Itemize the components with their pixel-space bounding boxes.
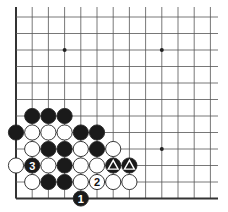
- white-stone: [122, 174, 137, 189]
- black-stone: [122, 158, 137, 173]
- black-stone: [57, 174, 72, 189]
- white-stone: [73, 174, 88, 189]
- white-stone: [25, 141, 40, 156]
- white-stone: [41, 158, 56, 173]
- stone-body: [73, 158, 88, 173]
- white-stone: [8, 158, 23, 173]
- stone-body: [41, 158, 56, 173]
- stone-body: [89, 125, 104, 140]
- black-stone: [41, 141, 56, 156]
- black-stone: [41, 174, 56, 189]
- stone-body: [8, 125, 23, 140]
- stone-body: [106, 174, 121, 189]
- stone-body: [73, 125, 88, 140]
- stone-body: [73, 141, 88, 156]
- stone-body: [57, 141, 72, 156]
- stone-body: [41, 125, 56, 140]
- black-stone: [41, 108, 56, 123]
- star-point: [160, 147, 164, 151]
- white-stone: [57, 125, 72, 140]
- black-stone: [25, 108, 40, 123]
- black-stone: [57, 141, 72, 156]
- stone-body: [57, 158, 72, 173]
- star-point: [63, 48, 67, 52]
- stone-body: [89, 158, 104, 173]
- stone-body: [25, 125, 40, 140]
- black-stone: [89, 141, 104, 156]
- stone-body: [57, 125, 72, 140]
- stone-body: [89, 141, 104, 156]
- black-stone: 1: [73, 191, 88, 206]
- stone-body: [41, 108, 56, 123]
- stone-body: [25, 108, 40, 123]
- stone-body: [8, 158, 23, 173]
- black-stone: [8, 125, 23, 140]
- stone-body: [73, 174, 88, 189]
- white-stone: [25, 174, 40, 189]
- white-stone: [73, 158, 88, 173]
- black-stone: [106, 158, 121, 173]
- star-point: [160, 48, 164, 52]
- black-stone: [57, 108, 72, 123]
- white-stone: [25, 125, 40, 140]
- stone-body: [41, 174, 56, 189]
- white-stone: [41, 125, 56, 140]
- stone-body: [25, 174, 40, 189]
- black-stone: [57, 158, 72, 173]
- black-stone: [73, 125, 88, 140]
- black-stone: [89, 125, 104, 140]
- stone-body: [41, 141, 56, 156]
- go-board-diagram: 321: [0, 0, 228, 212]
- stone-body: [106, 141, 121, 156]
- stone-body: [25, 141, 40, 156]
- move-number: 3: [29, 160, 35, 172]
- white-stone: [106, 174, 121, 189]
- black-stone: 3: [25, 158, 40, 173]
- stones-layer: 321: [8, 108, 137, 206]
- move-number: 1: [78, 193, 84, 205]
- stone-body: [57, 108, 72, 123]
- stone-body: [57, 174, 72, 189]
- white-stone: [106, 141, 121, 156]
- stone-body: [122, 174, 137, 189]
- white-stone: [89, 158, 104, 173]
- white-stone: 2: [89, 174, 104, 189]
- move-number: 2: [94, 176, 100, 188]
- white-stone: [73, 141, 88, 156]
